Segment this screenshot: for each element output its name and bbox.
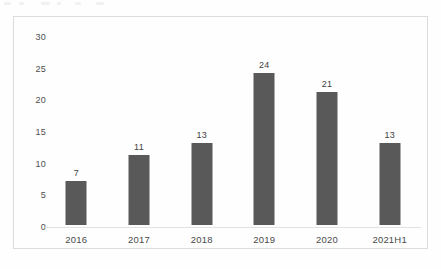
scan-speckle: [41, 2, 50, 5]
bar-chart: 051015202530 720161120171320182420192120…: [13, 16, 428, 249]
x-axis-tick-label: 2020: [316, 234, 338, 245]
bar[interactable]: [128, 155, 149, 225]
bar-series: 72016112017132018242019212020132021H1: [45, 17, 421, 248]
bar[interactable]: [379, 143, 400, 225]
scan-speckle: [75, 2, 81, 5]
bar-group[interactable]: 112017: [108, 17, 171, 248]
bar-value-label: 13: [384, 130, 394, 140]
bar-value-label: 24: [259, 60, 269, 70]
y-axis-tick-label: 10: [16, 159, 46, 169]
bar-value-label: 13: [196, 130, 206, 140]
scan-speckle: [19, 2, 24, 5]
y-axis-tick-label: 0: [16, 222, 46, 232]
x-axis-tick-label: 2019: [253, 234, 275, 245]
bar[interactable]: [254, 73, 275, 225]
bar-group[interactable]: 132021H1: [358, 17, 421, 248]
bar[interactable]: [191, 143, 212, 225]
scan-speckle: [96, 2, 104, 5]
x-axis-tick-label: 2018: [191, 234, 213, 245]
y-axis-tick-label: 30: [16, 32, 46, 42]
scan-artifacts: [0, 0, 441, 9]
bar[interactable]: [316, 92, 337, 225]
y-axis-tick-label: 20: [16, 95, 46, 105]
x-axis-tick-label: 2016: [65, 234, 87, 245]
bar-group[interactable]: 72016: [45, 17, 108, 248]
bar-group[interactable]: 132018: [170, 17, 233, 248]
bar-value-label: 11: [134, 142, 144, 152]
bar-group[interactable]: 212020: [296, 17, 359, 248]
x-axis-tick-label: 2021H1: [372, 234, 406, 245]
bar[interactable]: [66, 181, 87, 225]
bar-value-label: 7: [74, 168, 79, 178]
bar-value-label: 21: [322, 79, 332, 89]
y-axis-tick-label: 25: [16, 64, 46, 74]
scan-speckle: [57, 2, 61, 5]
x-axis-tick-label: 2017: [128, 234, 150, 245]
y-axis-tick-label: 15: [16, 127, 46, 137]
bar-group[interactable]: 242019: [233, 17, 296, 248]
scan-speckle: [4, 2, 11, 5]
plot-area: 051015202530 720161120171320182420192120…: [14, 17, 427, 248]
y-axis-tick-label: 5: [16, 190, 46, 200]
